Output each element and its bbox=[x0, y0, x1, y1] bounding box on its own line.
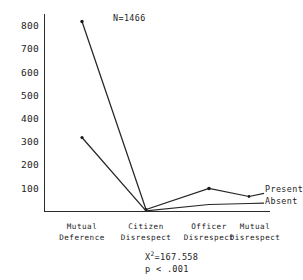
legend-rule-present bbox=[249, 193, 264, 196]
x-axis-tick-labels: Mutual Deference Citizen Disrespect Offi… bbox=[59, 222, 280, 242]
series-present-line bbox=[82, 22, 249, 210]
x-tick-label-line2: Disrespect bbox=[184, 233, 235, 242]
y-tick-label: 600 bbox=[21, 67, 39, 78]
x-tick-label-line1: Mutual bbox=[240, 222, 270, 231]
x-tick-label-line2: Deference bbox=[59, 233, 105, 242]
legend-item-present: Present bbox=[265, 184, 303, 194]
y-tick-label: 200 bbox=[21, 159, 39, 170]
data-point-marker bbox=[80, 136, 83, 139]
series-present bbox=[80, 20, 250, 211]
p-value-text: p < .001 bbox=[145, 264, 189, 274]
y-axis-tick-labels: 100 200 300 400 500 600 700 800 bbox=[21, 20, 39, 193]
y-tick-label: 700 bbox=[21, 43, 39, 54]
legend-item-absent: Absent bbox=[265, 196, 298, 206]
sample-size-annotation: N=1466 bbox=[113, 13, 146, 23]
chart-legend: Present Absent bbox=[265, 184, 303, 206]
x-tick-label-line1: Officer bbox=[191, 222, 227, 231]
x-tick-label-line1: Citizen bbox=[128, 222, 164, 231]
x-tick-label-line2: Disrespect bbox=[230, 233, 281, 242]
line-chart-canvas: 100 200 300 400 500 600 700 800 N=1466 bbox=[0, 0, 303, 280]
series-absent-line bbox=[82, 138, 249, 211]
legend-connectors bbox=[249, 193, 264, 203]
chi-value: =167.558 bbox=[155, 252, 199, 262]
y-tick-label: 800 bbox=[21, 20, 39, 31]
y-tick-label: 400 bbox=[21, 113, 39, 124]
chart-figure: 100 200 300 400 500 600 700 800 N=1466 bbox=[0, 0, 303, 280]
data-point-marker bbox=[80, 20, 83, 23]
y-tick-label: 500 bbox=[21, 90, 39, 101]
series-absent bbox=[80, 136, 249, 211]
chart-axes bbox=[44, 14, 270, 212]
chi-square-statistic: X2=167.558 bbox=[145, 250, 198, 262]
y-tick-label: 300 bbox=[21, 136, 39, 147]
statistics-footer: X2=167.558 p < .001 bbox=[145, 250, 198, 273]
y-tick-label: 100 bbox=[21, 183, 39, 194]
data-point-marker bbox=[207, 187, 211, 191]
x-tick-label-line2: Disrespect bbox=[121, 233, 172, 242]
x-tick-label-line1: Mutual bbox=[67, 222, 97, 231]
